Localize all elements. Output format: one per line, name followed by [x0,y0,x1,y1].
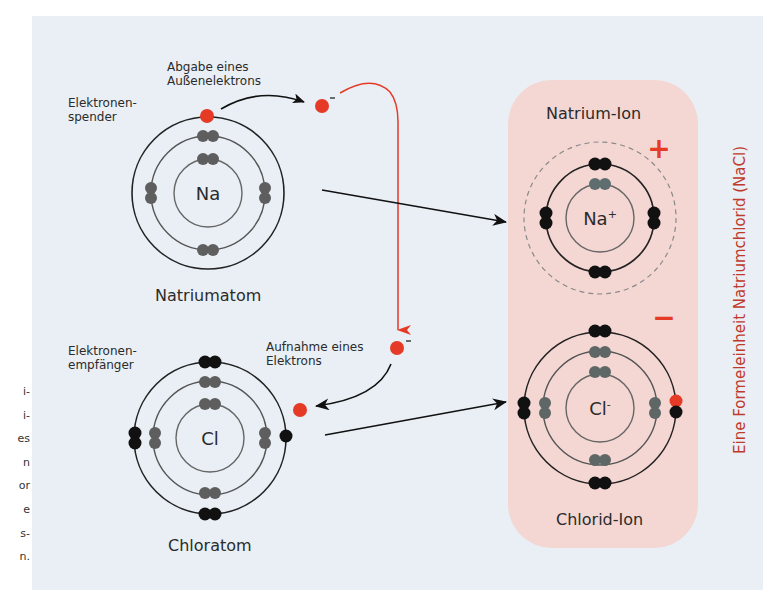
electron-transfer-arrow [340,83,398,330]
sodium-ion-charge-text: + [608,208,617,221]
sodium-ion-symbol-text: Na [583,208,608,229]
release-label-line: Außenelektrons [167,74,261,88]
release-label-line: Abgabe eines [167,60,261,74]
release-arrow [221,95,304,109]
chlorine-atom-label: Chloratom [168,536,252,555]
incoming-electron [293,403,307,417]
chlorine-to-ion-arrow [325,402,506,435]
negative-charge-sign: − [652,301,675,334]
donor-label-line: Elektronen- [68,96,137,110]
acceptor-label-line: Elektronen- [68,344,137,358]
chloride-ion-symbol-text: Cl [589,398,607,419]
uptake-label-line: Elektrons [266,354,363,368]
chlorine-symbol: Cl [201,428,219,449]
uptake-label-line: Aufnahme eines [266,340,363,354]
chloride-ion-symbol: Cl- [589,398,611,419]
chlorine-symbol-text: Cl [201,428,219,449]
sodium-atom-label: Natriumatom [155,286,261,305]
donor-label-line: spender [68,110,137,124]
sodium-to-ion-arrow [322,190,506,222]
chloride-ion-charge-text: - [607,398,611,411]
donor-label: Elektronen- spender [68,96,137,124]
sodium-ion-symbol: Na+ [583,208,617,229]
sodium-symbol: Na [196,183,221,204]
release-label: Abgabe eines Außenelektrons [167,60,261,88]
positive-charge-sign: + [647,132,670,165]
uptake-arrow [316,364,391,406]
sodium-ion-label: Natrium-Ion [546,104,641,123]
uptake-label: Aufnahme eines Elektrons [266,340,363,368]
acceptor-label: Elektronen- empfänger [68,344,137,372]
sodium-symbol-text: Na [196,183,221,204]
transferred-electron [390,341,404,355]
acceptor-label-line: empfänger [68,358,137,372]
chloride-ion-label: Chlorid-Ion [556,510,643,529]
formula-unit-label: Eine Formeleinheit Natriumchlorid (NaCl) [731,146,749,454]
free-electron [315,99,329,113]
